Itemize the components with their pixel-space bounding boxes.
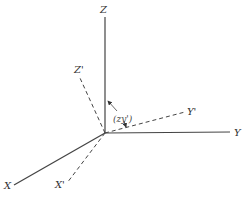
angle-label: (zy')	[113, 114, 133, 124]
z-prime-label: Z'	[73, 64, 84, 75]
y-prime-label: Y'	[187, 106, 196, 117]
x-axis	[14, 133, 105, 185]
y-axis-label: Y	[234, 127, 242, 138]
x-prime-axis	[67, 133, 105, 183]
y-axis	[105, 132, 230, 133]
z-axis-label: Z	[99, 4, 108, 15]
x-prime-label: X'	[54, 179, 65, 190]
angle-arrow-up	[108, 101, 117, 111]
x-axis-label: X	[3, 180, 12, 191]
axes-diagram: Z Y X Z' Y' X' (zy')	[0, 0, 242, 201]
z-prime-axis	[80, 78, 105, 133]
